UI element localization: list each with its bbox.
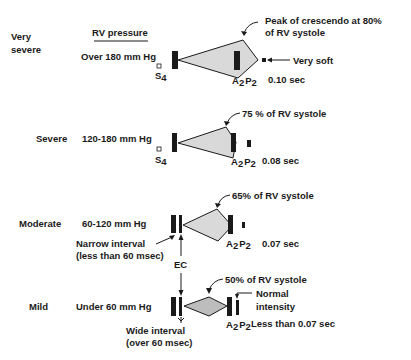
s4-marker (157, 147, 161, 151)
ejection-click-label: EC (174, 259, 187, 270)
p2-annotation: Very soft (293, 55, 334, 66)
s4-label: S4 (155, 154, 167, 167)
s4-marker (157, 64, 161, 68)
p2-sound-bar (247, 140, 251, 147)
arrowhead-down-icon (179, 290, 184, 296)
header: RV pressure (92, 27, 148, 41)
arrowhead-icon (206, 288, 212, 294)
severity-label: Mild (29, 301, 48, 312)
row-very-severe: Very severe Over 180 mm Hg S4 Peak of cr… (11, 15, 382, 88)
ejection-click-connector: EC (174, 234, 187, 296)
row-severe: Severe 120-180 mm Hg S4 75 % of RV systo… (36, 108, 326, 169)
pulmonic-stenosis-diagram: RV pressure Very severe Over 180 mm Hg S… (0, 0, 411, 360)
arrowhead-icon (224, 121, 230, 126)
peak-annotation-arrow (244, 22, 258, 33)
a2-sound-bar (234, 51, 240, 70)
crescendo-decrescendo-murmur (178, 40, 258, 78)
severity-label-line1: Very (11, 31, 32, 42)
rv-pressure-column-title: RV pressure (92, 27, 148, 38)
arrowhead-icon (235, 294, 239, 299)
peak-annotation: 65% of RV systole (232, 190, 314, 201)
ejection-click-bar (179, 215, 182, 233)
row-mild: Mild Under 60 mm Hg 50% of RV systole No… (29, 274, 335, 348)
s4-label: S4 (155, 70, 167, 83)
p2-annotation-line2: intensity (256, 301, 296, 312)
murmur-duration: 0.08 sec (262, 155, 299, 166)
severity-label: Moderate (19, 218, 61, 229)
peak-annotation-line1: Peak of crescendo at 80% (265, 15, 382, 26)
arrowhead-icon (215, 203, 221, 208)
peak-annotation-line2: of RV systole (265, 27, 325, 38)
s1-sound-bar (171, 297, 176, 316)
rv-pressure-value: Over 180 mm Hg (81, 51, 156, 62)
s1-sound-bar (171, 215, 176, 233)
severity-label-line2: severe (11, 44, 41, 55)
a2-sound-bar (227, 297, 232, 316)
murmur-duration: Less than 0.07 sec (251, 318, 335, 329)
arrowhead-icon (267, 58, 272, 63)
interval-annotation-line1: Wide interval (126, 325, 185, 336)
rv-pressure-value: Under 60 mm Hg (76, 301, 152, 312)
a2-p2-label: A2P2 (226, 319, 251, 332)
interval-annotation-line1: Narrow interval (76, 238, 145, 249)
rv-pressure-value: 120-180 mm Hg (82, 133, 152, 144)
a2-p2-label: A2P2 (231, 156, 256, 169)
arrowhead-up-icon (179, 234, 184, 240)
p2-sound-bar (262, 58, 266, 62)
peak-annotation: 50% of RV systole (225, 274, 307, 285)
a2-sound-bar (228, 215, 233, 234)
ejection-click-bar (179, 297, 182, 316)
p2-annotation-line1: Normal (256, 288, 289, 299)
p2-sound-bar (236, 300, 239, 315)
murmur-duration: 0.07 sec (262, 238, 299, 249)
peak-annotation-arrow (227, 113, 240, 123)
a2-p2-label: A2P2 (232, 75, 257, 88)
peak-annotation: 75 % of RV systole (242, 108, 326, 119)
diamond-murmur (184, 297, 227, 316)
s1-sound-bar (172, 133, 177, 152)
a2-p2-label: A2P2 (226, 238, 251, 251)
crescendo-decrescendo-murmur (178, 127, 236, 158)
arrowhead-icon (241, 31, 247, 36)
p2-sound-bar (242, 222, 245, 228)
murmur-duration: 0.10 sec (268, 74, 305, 85)
rv-pressure-value: 60-120 mm Hg (82, 218, 147, 229)
a2-sound-bar (231, 133, 236, 152)
severity-label: Severe (36, 133, 67, 144)
interval-annotation-line2: (over 60 msec) (126, 337, 193, 348)
crescendo-decrescendo-murmur (183, 209, 232, 241)
interval-annotation-line2: (less than 60 msec) (76, 250, 164, 261)
row-moderate: Moderate 60-120 mm Hg 65% of RV systole … (19, 190, 314, 261)
peak-annotation-arrow (218, 195, 230, 205)
interval-annotation-arrow (156, 237, 172, 244)
